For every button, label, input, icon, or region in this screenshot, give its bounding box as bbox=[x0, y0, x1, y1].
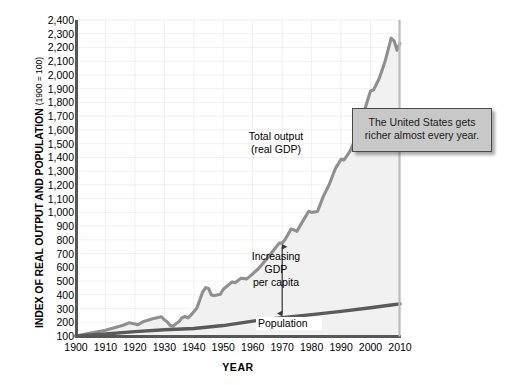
x-tick-label: 1920 bbox=[123, 341, 146, 353]
x-tick-label: 1950 bbox=[212, 341, 235, 353]
population-label: Population bbox=[256, 317, 322, 330]
gdp-per-capita-line3: per capita bbox=[244, 276, 308, 289]
x-tick-label: 1910 bbox=[94, 341, 117, 353]
x-tick-labels: 1900191019201930194019501960197019801990… bbox=[0, 0, 510, 385]
x-tick-label: 1960 bbox=[241, 341, 264, 353]
total-output-label-line1: Total output bbox=[228, 130, 324, 143]
callout-line1: The United States gets bbox=[359, 116, 485, 129]
x-tick-label: 1900 bbox=[64, 341, 87, 353]
x-tick-label: 2010 bbox=[388, 341, 411, 353]
x-tick-label: 1940 bbox=[182, 341, 205, 353]
x-tick-label: 1970 bbox=[270, 341, 293, 353]
x-tick-label: 1930 bbox=[153, 341, 176, 353]
chart-figure: INDEX OF REAL OUTPUT AND POPULATION (190… bbox=[0, 0, 510, 385]
callout-line2: richer almost every year. bbox=[359, 129, 485, 142]
x-tick-label: 2000 bbox=[359, 341, 382, 353]
gdp-per-capita-line2: GDP bbox=[244, 263, 308, 276]
x-tick-label: 1980 bbox=[300, 341, 323, 353]
total-output-label: Total output (real GDP) bbox=[228, 130, 324, 156]
gdp-per-capita-line1: Increasing bbox=[244, 250, 308, 263]
x-axis-title: YEAR bbox=[76, 361, 400, 373]
callout-box: The United States gets richer almost eve… bbox=[352, 108, 492, 152]
x-tick-label: 1990 bbox=[329, 341, 352, 353]
total-output-label-line2: (real GDP) bbox=[228, 143, 324, 156]
gdp-per-capita-label: Increasing GDP per capita bbox=[244, 250, 308, 288]
